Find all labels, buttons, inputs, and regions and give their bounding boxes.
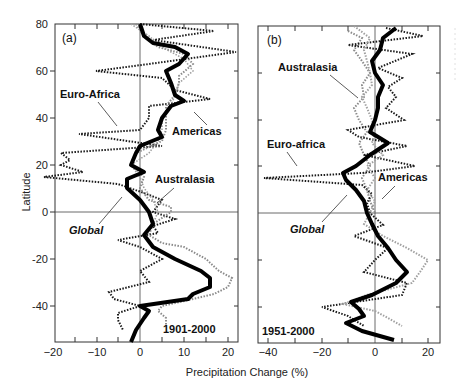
panel-a: (a) Euro-Africa Americas Australasia Glo… <box>44 24 238 342</box>
leader-b-australasia <box>330 75 358 98</box>
leader-a-global <box>99 197 122 224</box>
x-axis-a: −20 −10 0 10 20 <box>44 346 234 358</box>
ytick-0: 0 <box>42 206 48 218</box>
xtick-b-neg40: −40 <box>259 346 278 358</box>
label-a-americas: Americas <box>172 125 222 137</box>
leader-b-euro-africa <box>287 152 297 166</box>
panel-b: (b) Australasia Euro-africa Americas Glo… <box>258 26 440 343</box>
leader-b-americas <box>382 186 395 199</box>
period-a: 1901-2000 <box>163 323 216 335</box>
leader-a-australasia <box>157 188 174 203</box>
label-b-global: Global <box>290 223 325 235</box>
y-axis: 80 60 40 20 0 -20 -40 Latitude <box>20 18 48 312</box>
leader-b-global <box>322 195 347 222</box>
leader-a-americas <box>194 112 207 125</box>
xtick-a-neg10: −10 <box>88 346 107 358</box>
xtick-b-0: 0 <box>372 346 378 358</box>
period-b: 1951-2000 <box>262 325 315 337</box>
panel-b-tag: (b) <box>267 33 282 47</box>
label-a-euro-africa: Euro-Africa <box>60 88 121 100</box>
xtick-a-20: 20 <box>222 346 234 358</box>
ytick-40: 40 <box>36 112 48 124</box>
xtick-a-0: 0 <box>137 346 143 358</box>
ytick-80: 80 <box>36 18 48 30</box>
x-axis-b: −40 −20 0 20 <box>259 346 434 358</box>
x-axis-title: Precipitation Change (%) <box>186 366 308 378</box>
ytick-neg20: -20 <box>32 253 48 265</box>
label-a-global: Global <box>69 224 104 236</box>
label-b-americas: Americas <box>378 171 428 183</box>
xtick-b-20: 20 <box>422 346 434 358</box>
panel-a-tag: (a) <box>62 31 77 45</box>
label-b-euro-africa: Euro-africa <box>267 138 326 150</box>
ytick-60: 60 <box>36 65 48 77</box>
figure: (a) Euro-Africa Americas Australasia Glo… <box>0 0 462 387</box>
xtick-a-10: 10 <box>178 346 190 358</box>
label-b-australasia: Australasia <box>278 61 338 73</box>
ytick-neg40: -40 <box>32 300 48 312</box>
xtick-a-neg20: −20 <box>44 346 63 358</box>
y-axis-title: Latitude <box>20 172 32 211</box>
label-a-australasia: Australasia <box>155 173 215 185</box>
leader-a-euro-africa <box>98 102 117 126</box>
ytick-20: 20 <box>36 159 48 171</box>
xtick-b-neg20: −20 <box>313 346 332 358</box>
